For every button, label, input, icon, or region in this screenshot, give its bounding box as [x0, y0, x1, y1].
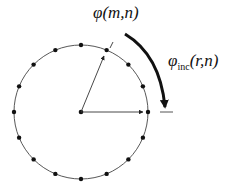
array-element-dot — [104, 48, 108, 52]
phi-inc-label: φinc(r,n) — [168, 51, 218, 72]
phi-inc-args: (r,n) — [190, 51, 219, 70]
phi-mn-pointer-tick — [110, 42, 113, 48]
array-element-dot — [53, 48, 57, 52]
incident-phase-arrow — [125, 34, 165, 107]
array-element-dot — [141, 84, 145, 88]
radial-vector-arrow — [81, 56, 104, 112]
array-element-dot — [17, 84, 21, 88]
array-element-dot — [126, 157, 130, 161]
array-element-dot — [146, 110, 150, 114]
phi-symbol: φ — [168, 51, 177, 70]
diagram-canvas — [0, 0, 240, 185]
array-element-dot — [31, 62, 35, 66]
array-element-dot — [53, 172, 57, 176]
array-element-dot — [79, 43, 83, 47]
array-element-dot — [12, 110, 16, 114]
array-element-dot — [31, 157, 35, 161]
phi-mn-args: (m,n) — [102, 3, 138, 22]
array-element-dot — [141, 135, 145, 139]
array-element-dot — [104, 172, 108, 176]
phi-symbol: φ — [93, 3, 102, 22]
phi-mn-label: φ(m,n) — [93, 3, 139, 23]
array-element-dot — [126, 62, 130, 66]
phi-inc-subscript: inc — [177, 61, 189, 72]
array-element-dot — [79, 177, 83, 181]
array-element-dot — [17, 135, 21, 139]
